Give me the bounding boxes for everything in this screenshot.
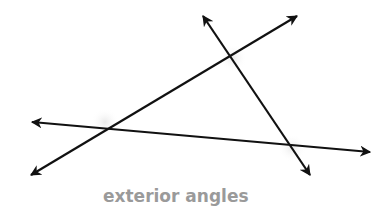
diagram-caption: exterior angles [103, 186, 249, 206]
line-b-bidirectional-arrow [32, 122, 370, 152]
